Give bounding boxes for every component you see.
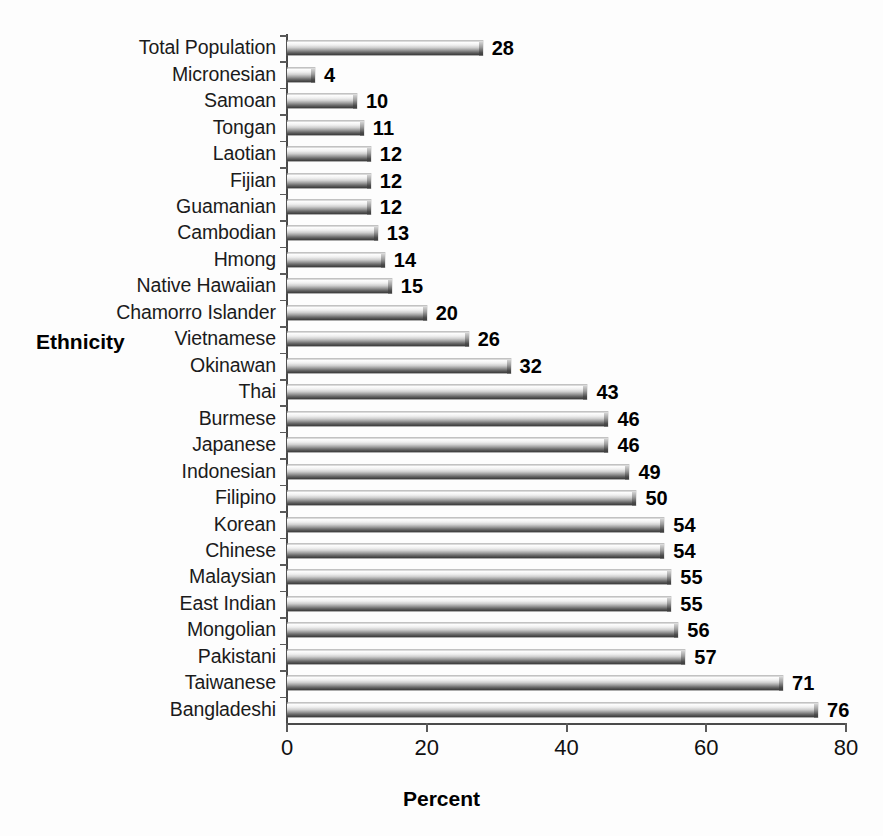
y-axis-tick bbox=[280, 247, 287, 249]
x-axis-tick bbox=[566, 723, 568, 732]
bar-row: Tongan11 bbox=[287, 114, 846, 140]
category-label: Chamorro Islander bbox=[116, 303, 276, 323]
bar bbox=[287, 623, 678, 638]
category-label: Burmese bbox=[199, 409, 276, 429]
bar-row: Samoan10 bbox=[287, 88, 846, 114]
bar bbox=[287, 332, 469, 347]
y-axis-tick bbox=[280, 88, 287, 90]
y-axis-tick bbox=[280, 538, 287, 540]
bar bbox=[287, 543, 664, 558]
bar-value-label: 54 bbox=[673, 515, 695, 535]
bar-row: Taiwanese71 bbox=[287, 670, 846, 696]
bar-value-label: 32 bbox=[520, 356, 542, 376]
bar bbox=[287, 438, 608, 453]
bar bbox=[287, 702, 818, 717]
bar-row: Laotian12 bbox=[287, 141, 846, 167]
bar bbox=[287, 41, 483, 56]
bar bbox=[287, 491, 636, 506]
bar-row: Burmese46 bbox=[287, 405, 846, 431]
y-axis-tick bbox=[280, 114, 287, 116]
category-label: Indonesian bbox=[182, 462, 276, 482]
bar bbox=[287, 147, 371, 162]
category-label: Tongan bbox=[213, 118, 276, 138]
bar-value-label: 28 bbox=[492, 38, 514, 58]
bar-value-label: 49 bbox=[638, 462, 660, 482]
y-axis-tick bbox=[280, 485, 287, 487]
y-axis-tick bbox=[280, 61, 287, 63]
y-axis-tick bbox=[280, 35, 287, 37]
bar-value-label: 50 bbox=[645, 488, 667, 508]
bar bbox=[287, 199, 371, 214]
y-axis-tick bbox=[280, 564, 287, 566]
category-label: Okinawan bbox=[190, 356, 276, 376]
bar bbox=[287, 649, 685, 664]
category-label: Micronesian bbox=[172, 65, 276, 85]
bar bbox=[287, 676, 783, 691]
category-label: Malaysian bbox=[189, 568, 276, 588]
bar bbox=[287, 173, 371, 188]
y-axis-tick bbox=[280, 326, 287, 328]
bar bbox=[287, 517, 664, 532]
category-label: Taiwanese bbox=[185, 674, 276, 694]
category-label: Bangladeshi bbox=[170, 700, 276, 720]
x-axis-tick-label: 20 bbox=[415, 737, 439, 759]
y-axis-tick bbox=[280, 644, 287, 646]
bar-row: Vietnamese26 bbox=[287, 326, 846, 352]
x-axis-tick bbox=[286, 723, 288, 732]
category-label: Laotian bbox=[213, 144, 276, 164]
bar-row: Fijian12 bbox=[287, 167, 846, 193]
bar bbox=[287, 464, 629, 479]
x-axis-tick bbox=[845, 723, 847, 732]
y-axis-tick bbox=[280, 458, 287, 460]
bar-row: Cambodian13 bbox=[287, 220, 846, 246]
bar-value-label: 71 bbox=[792, 673, 814, 693]
y-axis-tick bbox=[280, 432, 287, 434]
bar-value-label: 46 bbox=[617, 409, 639, 429]
bar bbox=[287, 358, 511, 373]
x-axis-tick bbox=[426, 723, 428, 732]
category-label: Mongolian bbox=[187, 621, 276, 641]
x-axis-tick-label: 60 bbox=[694, 737, 718, 759]
y-axis-tick bbox=[280, 511, 287, 513]
bar-row: Okinawan32 bbox=[287, 353, 846, 379]
y-axis-tick bbox=[280, 353, 287, 355]
y-axis-tick bbox=[280, 273, 287, 275]
y-axis-tick bbox=[280, 697, 287, 699]
bar bbox=[287, 67, 315, 82]
bar bbox=[287, 570, 671, 585]
y-axis-tick bbox=[280, 670, 287, 672]
y-axis-tick bbox=[280, 194, 287, 196]
bar-value-label: 76 bbox=[827, 700, 849, 720]
bar-value-label: 12 bbox=[380, 171, 402, 191]
bar bbox=[287, 305, 427, 320]
bar-value-label: 26 bbox=[478, 329, 500, 349]
x-axis-title: Percent bbox=[0, 787, 883, 811]
y-axis-tick bbox=[280, 167, 287, 169]
bar bbox=[287, 226, 378, 241]
bar-row: Chamorro Islander20 bbox=[287, 300, 846, 326]
bar-value-label: 12 bbox=[380, 197, 402, 217]
category-label: Cambodian bbox=[177, 224, 276, 244]
bar-value-label: 57 bbox=[694, 647, 716, 667]
bar-value-label: 56 bbox=[687, 620, 709, 640]
y-axis-tick bbox=[280, 591, 287, 593]
bar-value-label: 55 bbox=[680, 567, 702, 587]
category-label: Vietnamese bbox=[174, 330, 276, 350]
bar-value-label: 43 bbox=[596, 382, 618, 402]
bar bbox=[287, 120, 364, 135]
bar-row: Korean54 bbox=[287, 511, 846, 537]
y-axis-tick bbox=[280, 141, 287, 143]
bar-row: East Indian55 bbox=[287, 591, 846, 617]
bar-row: Filipino50 bbox=[287, 485, 846, 511]
y-axis-tick bbox=[280, 300, 287, 302]
bar-value-label: 13 bbox=[387, 223, 409, 243]
bar-value-label: 46 bbox=[617, 435, 639, 455]
y-axis-tick bbox=[280, 405, 287, 407]
bar bbox=[287, 94, 357, 109]
bar-row: Japanese46 bbox=[287, 432, 846, 458]
bar-row: Micronesian4 bbox=[287, 61, 846, 87]
x-axis-tick bbox=[705, 723, 707, 732]
category-label: Korean bbox=[214, 515, 276, 535]
bar-row: Malaysian55 bbox=[287, 564, 846, 590]
x-axis-tick-label: 0 bbox=[281, 737, 293, 759]
